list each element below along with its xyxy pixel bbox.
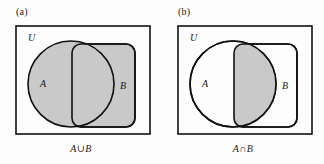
panel-intersection: (b) U A B [162, 0, 324, 164]
venn-diagram-figure: (a) U A B A∪B (b) [0, 0, 324, 164]
venn-svg-union: U A B [0, 0, 162, 164]
caption-union: A∪B [0, 143, 162, 154]
set-b-label-a: B [120, 80, 126, 91]
set-b-label-b: B [282, 80, 288, 91]
universe-label-a: U [28, 32, 36, 43]
set-a-label-a: A [39, 78, 47, 89]
venn-svg-intersection: U A B [162, 0, 324, 164]
caption-intersection: A∩B [162, 143, 324, 154]
panel-union: (a) U A B A∪B [0, 0, 162, 164]
set-a-label-b: A [201, 78, 209, 89]
universe-label-b: U [190, 32, 198, 43]
